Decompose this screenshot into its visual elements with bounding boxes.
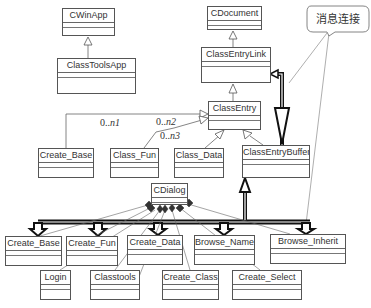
- class-login: Login: [40, 270, 71, 300]
- generalization-arrow-icon: [243, 130, 252, 139]
- class-name: Create_Data: [128, 236, 182, 250]
- message-arrow-icon: [275, 108, 289, 144]
- class-create-fun: Create_Fun: [66, 236, 118, 266]
- message-arrow-icon: [270, 70, 278, 78]
- uml-class-diagram: CWinApp ClassToolsApp CDocument ClassEnt…: [0, 0, 371, 308]
- class-cwinapp: CWinApp: [62, 8, 115, 36]
- bus-drop-arrow-icon: [298, 223, 314, 234]
- class-name: Create_Select: [233, 271, 301, 285]
- message-arrow-icon: [240, 178, 250, 192]
- class-browse-name: Browse_Name: [194, 235, 255, 265]
- multiplicity-label: 0..n1: [100, 117, 120, 128]
- class-create-class: Create_Class: [162, 270, 219, 300]
- class-create-data: Create_Data: [127, 235, 183, 265]
- class-name: CWinApp: [63, 9, 114, 23]
- class-name: Create_Fun: [67, 237, 117, 251]
- bus-drop-arrow-icon: [30, 223, 46, 236]
- class-name: Browse_Name: [195, 236, 254, 250]
- class-name: ClassEntryBuffer: [243, 146, 309, 160]
- class-classtoolsapp: ClassToolsApp: [57, 58, 136, 94]
- bus-drop-arrow-icon: [216, 223, 232, 235]
- class-cdialog: CDialog: [151, 183, 188, 205]
- generalization-arrow-icon: [229, 84, 237, 93]
- class-cdocument: CDocument: [207, 6, 262, 30]
- bus-drop-arrow-icon: [150, 223, 166, 235]
- class-browse-inherit: Browse_Inherit: [270, 234, 346, 264]
- class-classtools: Classtools: [90, 270, 140, 300]
- class-name: Class_Data: [175, 149, 223, 163]
- class-name: ClassToolsApp: [58, 59, 135, 73]
- generalization-arrow-icon: [229, 31, 237, 39]
- generalization-arrow-icon: [84, 37, 92, 45]
- class-name: Classtools: [91, 271, 139, 285]
- class-name: Create_Base: [6, 237, 61, 251]
- class-create-base: Create_Base: [5, 236, 62, 266]
- class-name: ClassEntry: [209, 102, 260, 116]
- class-classentrylink: ClassEntryLink: [201, 47, 271, 83]
- multiplicity-label: 0..n2: [156, 116, 176, 127]
- class-name: ClassEntryLink: [202, 48, 270, 62]
- class-name: CDocument: [208, 7, 261, 21]
- class-name: Login: [41, 271, 70, 285]
- class-name: Create_Class: [163, 271, 218, 285]
- class-name: Create_Base: [39, 149, 93, 163]
- multiplicity-label: 0..n3: [160, 130, 180, 141]
- class-name: Browse_Inherit: [271, 235, 345, 249]
- class-create-base-top: Create_Base: [38, 148, 94, 178]
- class-class-data: Class_Data: [174, 148, 224, 178]
- class-name: Class_Fun: [111, 149, 158, 163]
- bus-drop-arrow-icon: [90, 223, 106, 236]
- class-classentry: ClassEntry: [208, 101, 261, 130]
- generalization-arrow-icon: [199, 116, 208, 124]
- callout-note: 消息连接: [307, 10, 369, 26]
- class-name: CDialog: [152, 184, 187, 198]
- class-create-select: Create_Select: [232, 270, 302, 300]
- class-class-fun: Class_Fun: [110, 148, 159, 178]
- class-classentrybuffer: ClassEntryBuffer: [242, 145, 310, 178]
